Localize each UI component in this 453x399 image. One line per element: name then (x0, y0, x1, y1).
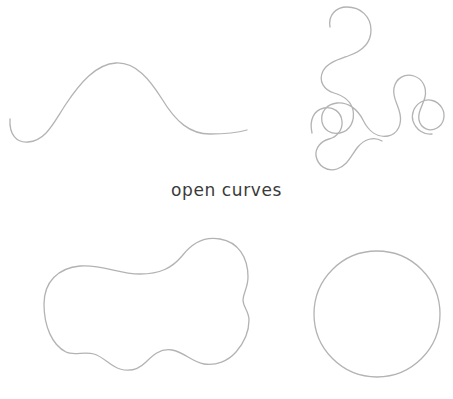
caption-open-curves: open curves (0, 180, 453, 200)
wave-open-curve (10, 63, 247, 142)
circle-closed-curve (314, 251, 440, 377)
blob-closed-curve (44, 238, 249, 370)
figure-canvas: open curves (0, 0, 453, 399)
meander-open-curve (321, 7, 444, 136)
